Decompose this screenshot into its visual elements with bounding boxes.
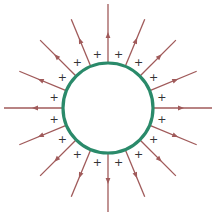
plus-charge-icon: + (134, 56, 143, 69)
arrow-icon (79, 172, 84, 178)
plus-charge-icon: + (114, 156, 123, 169)
plus-charge-icon: + (49, 91, 58, 104)
plus-charge-icon: + (157, 91, 166, 104)
arrow-icon (32, 106, 38, 111)
plus-charge-icon: + (49, 113, 58, 126)
plus-charge-icon: + (114, 48, 123, 61)
arrow-icon (178, 106, 184, 111)
arrow-icon (38, 79, 44, 84)
plus-charge-icon: + (73, 148, 82, 161)
arrow-icon (38, 133, 44, 138)
plus-charge-icon: + (73, 56, 82, 69)
plus-charge-icon: + (157, 113, 166, 126)
plus-charge-icon: + (93, 48, 102, 61)
charged-sphere (63, 63, 153, 153)
plus-charge-icon: + (149, 71, 158, 84)
plus-charge-icon: + (58, 71, 67, 84)
plus-charge-icon: + (58, 133, 67, 146)
arrow-icon (172, 79, 178, 84)
arrow-icon (106, 178, 111, 184)
arrow-icon (79, 38, 84, 44)
arrow-icon (106, 32, 111, 38)
plus-charge-icon: + (149, 133, 158, 146)
arrow-icon (172, 133, 178, 138)
plus-charge-icon: + (134, 148, 143, 161)
arrow-icon (133, 38, 138, 44)
plus-charge-icon: + (93, 156, 102, 169)
charged-sphere-diagram: ++++++++++++++++ (0, 0, 217, 220)
arrow-icon (133, 172, 138, 178)
